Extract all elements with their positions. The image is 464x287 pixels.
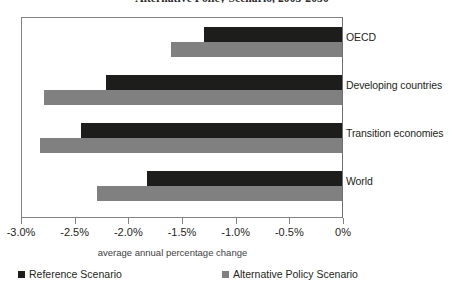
x-axis-tick-labels: -3.0%-2.5%-2.0%-1.5%-1.0%-0.5%0% — [0, 226, 464, 240]
x-axis-tick-label: -1.5% — [168, 226, 197, 238]
x-axis-tick — [343, 218, 344, 224]
chart-legend: Reference Scenario Alternative Policy Sc… — [0, 268, 464, 284]
legend-swatch-alternative-policy-scenario — [222, 271, 229, 278]
x-axis-tick — [236, 218, 237, 224]
bar-alternative — [171, 42, 342, 57]
x-axis-tick — [21, 218, 22, 224]
bar-group — [22, 69, 342, 119]
x-axis-tick — [128, 218, 129, 224]
bar-reference — [106, 75, 342, 90]
legend-item-alternative-policy-scenario: Alternative Policy Scenario — [222, 268, 358, 280]
x-axis-tick-label: -3.0% — [7, 226, 36, 238]
bar-reference — [81, 123, 342, 138]
bar-reference — [147, 171, 342, 186]
x-axis-tick-label: -2.0% — [114, 226, 143, 238]
bar-alternative — [44, 90, 342, 105]
x-axis-tick — [182, 218, 183, 224]
bar-group — [22, 165, 342, 215]
x-axis-tick-label: -0.5% — [275, 226, 304, 238]
chart-title: Alternative Policy Scenario, 2003-2030 — [0, 0, 464, 3]
category-label: Developing countries — [346, 79, 442, 91]
bar-reference — [204, 27, 342, 42]
category-label: Transition economies — [346, 127, 443, 139]
bar-alternative — [97, 186, 342, 201]
bar-group — [22, 21, 342, 71]
x-axis-title: average annual percentage change — [0, 247, 345, 258]
x-axis-tick — [289, 218, 290, 224]
legend-swatch-reference-scenario — [18, 271, 25, 278]
plot-area — [21, 17, 343, 218]
x-axis-tick — [75, 218, 76, 224]
x-axis-tick-label: -1.0% — [221, 226, 250, 238]
x-axis-tick-label: -2.5% — [60, 226, 89, 238]
category-label: World — [346, 175, 373, 187]
x-axis-tick-label: 0% — [335, 226, 351, 238]
bar-group — [22, 117, 342, 167]
x-axis-ticks — [0, 218, 464, 225]
legend-item-reference-scenario: Reference Scenario — [18, 268, 122, 280]
legend-label-alternative-policy-scenario: Alternative Policy Scenario — [233, 268, 358, 280]
category-label: OECD — [346, 31, 376, 43]
bar-alternative — [40, 138, 342, 153]
legend-label-reference-scenario: Reference Scenario — [29, 268, 122, 280]
